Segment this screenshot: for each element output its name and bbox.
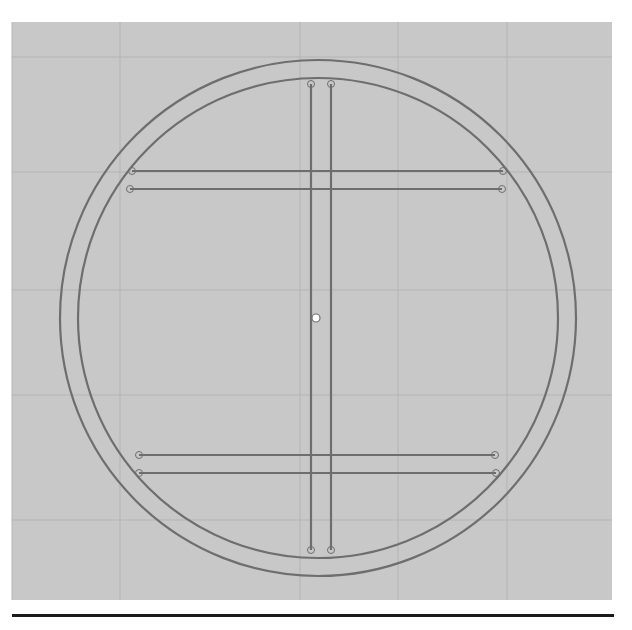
sketch-canvas[interactable] [0,0,632,630]
center-point[interactable] [312,314,320,322]
bottom-rule [12,614,614,617]
